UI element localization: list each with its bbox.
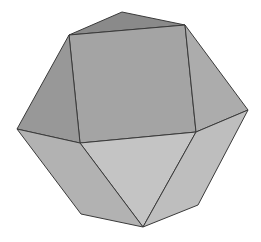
polyhedron-faces [17,12,248,227]
left-upper-triangle [17,35,80,143]
square-face [69,25,196,143]
polyhedron-diagram [0,0,261,242]
